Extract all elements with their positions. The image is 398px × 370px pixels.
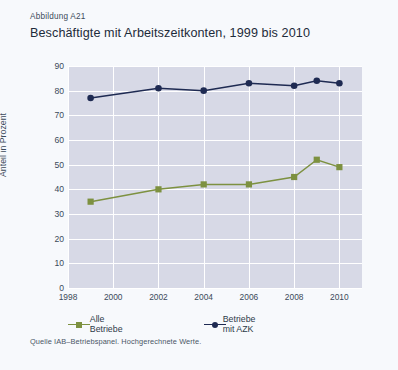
legend-symbol — [212, 322, 218, 328]
figure-inner-panel: Abbildung A21 Beschäftigte mit Arbeitsze… — [4, 4, 394, 360]
y-axis-tick-label: 70 — [38, 110, 64, 120]
x-axis-tick-label: 2008 — [285, 292, 304, 302]
data-point-marker — [336, 80, 343, 87]
legend-label: Betriebe mit AZK — [223, 314, 264, 334]
x-axis-tick-label: 1998 — [59, 292, 78, 302]
data-point-marker — [155, 186, 161, 192]
legend-marker-icon — [68, 320, 85, 329]
y-axis-tick-label: 50 — [38, 160, 64, 170]
legend-item: Alle Betriebe — [68, 314, 128, 334]
data-point-marker — [201, 181, 207, 187]
data-point-marker — [336, 164, 342, 170]
x-axis-tick-label: 2010 — [330, 292, 349, 302]
legend-label: Alle Betriebe — [90, 314, 128, 334]
y-axis-title: Anteil in Prozent — [0, 113, 8, 177]
data-point-marker — [88, 199, 94, 205]
legend-symbol — [76, 322, 82, 328]
x-axis-tick-label: 2000 — [104, 292, 123, 302]
y-axis-tick-label: 90 — [38, 61, 64, 71]
data-point-marker — [200, 87, 207, 94]
series-line — [91, 81, 340, 98]
data-point-marker — [313, 78, 320, 85]
data-point-marker — [246, 181, 252, 187]
y-axis-tick-label: 20 — [38, 234, 64, 244]
legend-marker-icon — [204, 320, 218, 329]
legend-item: Betriebe mit AZK — [204, 314, 264, 334]
series-line — [91, 160, 340, 202]
y-axis-tick-label: 40 — [38, 184, 64, 194]
data-point-marker — [314, 157, 320, 163]
plot-area — [68, 66, 362, 288]
page-title: Beschäftigte mit Arbeitszeitkonten, 1999… — [30, 26, 310, 40]
y-axis-tick-label: 10 — [38, 258, 64, 268]
figure-number: Abbildung A21 — [30, 12, 85, 21]
data-point-marker — [155, 85, 162, 92]
data-point-marker — [291, 82, 298, 89]
x-axis-tick-label: 2004 — [194, 292, 213, 302]
y-axis-tick-label: 30 — [38, 209, 64, 219]
data-point-marker — [246, 80, 253, 87]
y-axis-tick-label: 60 — [38, 135, 64, 145]
gridline-horizontal — [68, 288, 362, 289]
figure-card: Abbildung A21 Beschäftigte mit Arbeitsze… — [0, 0, 398, 370]
series-lines — [68, 66, 362, 288]
x-axis-tick-label: 2006 — [240, 292, 259, 302]
data-point-marker — [87, 95, 94, 102]
y-axis-tick-label: 80 — [38, 86, 64, 96]
data-point-marker — [291, 174, 297, 180]
source-note: Quelle IAB–Betriebspanel. Hochgerechnete… — [30, 337, 201, 346]
x-axis-tick-label: 2002 — [149, 292, 168, 302]
